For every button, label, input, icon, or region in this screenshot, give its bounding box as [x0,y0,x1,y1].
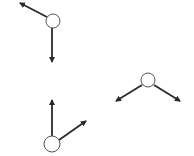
nodes-layer [44,14,155,152]
arrow-up-left-icon [20,3,47,17]
node-2-circle [141,73,155,87]
arrow-down-left-icon [116,85,142,101]
arrows-layer [20,3,180,140]
node-1-circle [46,14,60,28]
diagram-canvas [0,0,194,156]
node-3-circle [44,136,60,152]
arrow-up-right-icon [59,121,86,140]
arrow-down-right-icon [154,85,180,101]
